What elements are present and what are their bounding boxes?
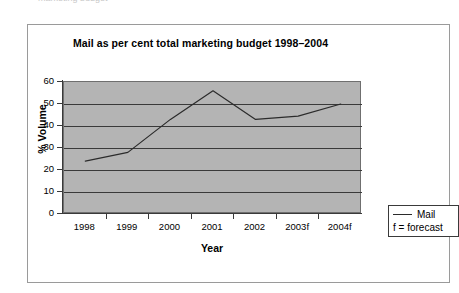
y-tick (57, 125, 63, 126)
legend-forecast-note: f = forecast (393, 221, 455, 234)
x-tick-label: 2000 (146, 221, 192, 232)
y-tick (57, 147, 63, 148)
y-tick (57, 81, 63, 82)
chart-line-svg (64, 82, 362, 214)
chart-legend: Mail f = forecast (388, 205, 459, 237)
y-tick-label: 20 (28, 164, 54, 174)
x-tick-label: 1998 (61, 221, 107, 232)
legend-item-mail: Mail (393, 208, 455, 221)
x-tick-label: 1999 (104, 221, 150, 232)
x-tick-label: 2004f (317, 221, 363, 232)
y-tick-label: 40 (28, 120, 54, 130)
x-tick (191, 214, 192, 219)
x-tick (276, 214, 277, 219)
plot-area (63, 81, 361, 213)
x-tick (148, 214, 149, 219)
x-tick (233, 214, 234, 219)
chart-title: Mail as per cent total marketing budget … (28, 37, 373, 49)
figure-frame: Mail as per cent total marketing budget … (27, 24, 450, 283)
legend-line-swatch-icon (393, 214, 412, 215)
x-tick (318, 214, 319, 219)
x-axis-title: Year (63, 242, 361, 254)
x-tick-label: 2002 (232, 221, 278, 232)
y-tick-label: 0 (28, 208, 54, 218)
y-tick (57, 169, 63, 170)
y-tick-label: 60 (28, 76, 54, 86)
cut-off-text-sliver: marketing budget (38, 0, 298, 8)
gridlines (64, 104, 362, 192)
x-tick-label: 2003f (274, 221, 320, 232)
legend-item-label: Mail (417, 208, 435, 221)
y-tick-label: 10 (28, 186, 54, 196)
x-tick (106, 214, 107, 219)
y-tick (57, 191, 63, 192)
y-tick (57, 103, 63, 104)
x-tick-label: 2001 (189, 221, 235, 232)
y-tick-label: 50 (28, 98, 54, 108)
y-tick-label: 30 (28, 142, 54, 152)
x-axis-line (62, 213, 362, 214)
